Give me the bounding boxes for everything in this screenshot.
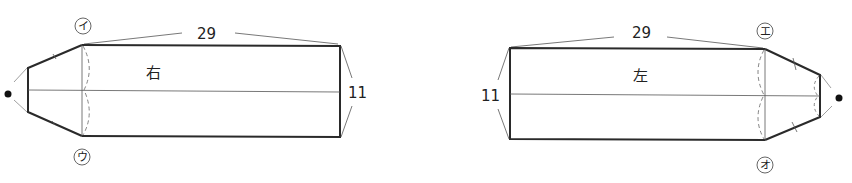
marker-bottom: オ: [760, 159, 771, 172]
marker-bottom: ウ: [77, 151, 88, 164]
dimension-leader-line: [341, 46, 352, 78]
tip-leader-line: [821, 106, 832, 117]
dimension-leader-line: [498, 109, 509, 139]
tip-leader-line: [14, 100, 27, 112]
center-line: [510, 94, 820, 96]
length-label: 29: [197, 25, 216, 43]
dimension-leader-line: [235, 33, 338, 44]
diagram-canvas: 29 11 右 イ ウ 29: [0, 0, 852, 183]
dimension-leader-line: [341, 106, 352, 137]
marker-top: エ: [760, 25, 771, 38]
tip-dot: [5, 91, 12, 98]
dashed-curve: [758, 50, 764, 139]
width-label: 11: [348, 84, 367, 102]
length-label: 29: [632, 24, 651, 42]
piece-label: 左: [633, 67, 648, 85]
piece-label: 右: [146, 64, 161, 82]
tip-leader-line: [14, 68, 27, 82]
dimension-leader-line: [84, 33, 182, 44]
marker-top: イ: [78, 20, 89, 33]
width-label: 11: [481, 87, 500, 105]
dimension-leader-line: [498, 48, 509, 80]
dimension-leader-line: [511, 37, 614, 47]
piece-left: 29 11 左 エ オ: [481, 23, 843, 173]
center-line: [28, 90, 340, 92]
tip-outline: [765, 49, 820, 140]
piece-right: 29 11 右 イ ウ: [5, 18, 368, 165]
tip-dot: [836, 95, 843, 102]
tip-leader-line: [821, 75, 831, 88]
dimension-leader-line: [667, 37, 763, 48]
